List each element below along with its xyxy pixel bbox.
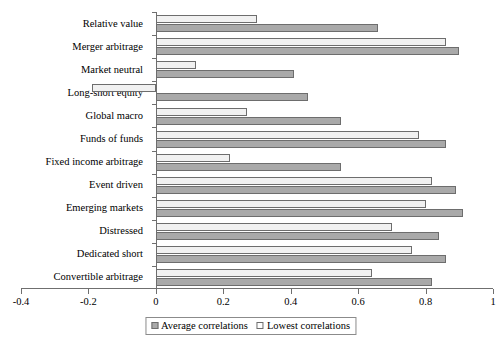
bar-row [21, 35, 493, 58]
y-axis-tick [152, 243, 156, 244]
bar-average-correlation [156, 186, 456, 194]
bar-row [21, 174, 493, 197]
bar-average-correlation [156, 47, 459, 55]
x-axis-tick [88, 289, 89, 294]
bar-lowest-correlation [156, 38, 446, 46]
bar-average-correlation [156, 209, 463, 217]
bar-row [21, 58, 493, 81]
y-axis-tick [152, 197, 156, 198]
x-axis-tick-label: 1 [490, 296, 495, 308]
bar-average-correlation [156, 70, 294, 78]
bar-average-correlation [156, 93, 308, 101]
bar-average-correlation [156, 232, 439, 240]
bar-lowest-correlation [92, 84, 156, 92]
x-axis-tick-label: -0.2 [80, 296, 97, 308]
bar-lowest-correlation [156, 223, 392, 231]
y-axis-tick [152, 12, 156, 13]
y-axis-tick [152, 81, 156, 82]
bar-lowest-correlation [156, 246, 412, 254]
bar-average-correlation [156, 24, 379, 32]
y-axis-tick [152, 174, 156, 175]
avg-swatch-icon [151, 322, 158, 329]
bar-average-correlation [156, 140, 446, 148]
plot-area [21, 12, 493, 289]
low-swatch-icon [257, 322, 264, 329]
y-axis-tick [152, 151, 156, 152]
bar-row [21, 266, 493, 289]
x-axis-tick [21, 289, 22, 294]
bar-row [21, 81, 493, 104]
legend-label-average: Average correlations [161, 319, 248, 332]
bar-lowest-correlation [156, 154, 230, 162]
chart-legend: Average correlations Lowest correlations [145, 317, 356, 335]
x-axis-tick-label: -0.4 [13, 296, 30, 308]
correlation-bar-chart: Relative valueMerger arbitrageMarket neu… [0, 0, 501, 343]
y-axis-tick [152, 220, 156, 221]
bar-row [21, 197, 493, 220]
bar-lowest-correlation [156, 269, 372, 277]
y-axis-tick [152, 58, 156, 59]
x-axis-tick-label: 0.4 [284, 296, 297, 308]
bar-average-correlation [156, 255, 446, 263]
bar-row [21, 151, 493, 174]
bar-lowest-correlation [156, 177, 432, 185]
x-axis-tick [156, 289, 157, 294]
y-axis-tick [152, 127, 156, 128]
bar-rows [21, 12, 493, 289]
bar-row [21, 127, 493, 150]
y-axis-tick [152, 35, 156, 36]
x-axis-tick-label: 0.2 [217, 296, 230, 308]
x-axis-tick-labels: -0.4-0.200.20.40.60.81 [0, 296, 501, 312]
bar-average-correlation [156, 117, 341, 125]
legend-item-lowest: Lowest correlations [257, 319, 350, 332]
bar-lowest-correlation [156, 108, 247, 116]
x-axis-tick [223, 289, 224, 294]
y-axis-tick [152, 104, 156, 105]
bar-row [21, 12, 493, 35]
bar-row [21, 220, 493, 243]
x-axis-tick-label: 0 [153, 296, 158, 308]
y-axis-tick [152, 266, 156, 267]
bar-lowest-correlation [156, 61, 196, 69]
legend-item-average: Average correlations [151, 319, 248, 332]
bar-row [21, 243, 493, 266]
legend-label-lowest: Lowest correlations [267, 319, 350, 332]
x-axis-tick-label: 0.8 [419, 296, 432, 308]
x-axis-tick [426, 289, 427, 294]
bar-row [21, 104, 493, 127]
bar-average-correlation [156, 278, 432, 286]
bar-lowest-correlation [156, 200, 426, 208]
x-axis-tick-label: 0.6 [352, 296, 365, 308]
bar-lowest-correlation [156, 15, 257, 23]
x-axis-tick [493, 289, 494, 294]
bar-lowest-correlation [156, 131, 419, 139]
x-axis-tick [291, 289, 292, 294]
x-axis-tick [358, 289, 359, 294]
bar-average-correlation [156, 163, 341, 171]
